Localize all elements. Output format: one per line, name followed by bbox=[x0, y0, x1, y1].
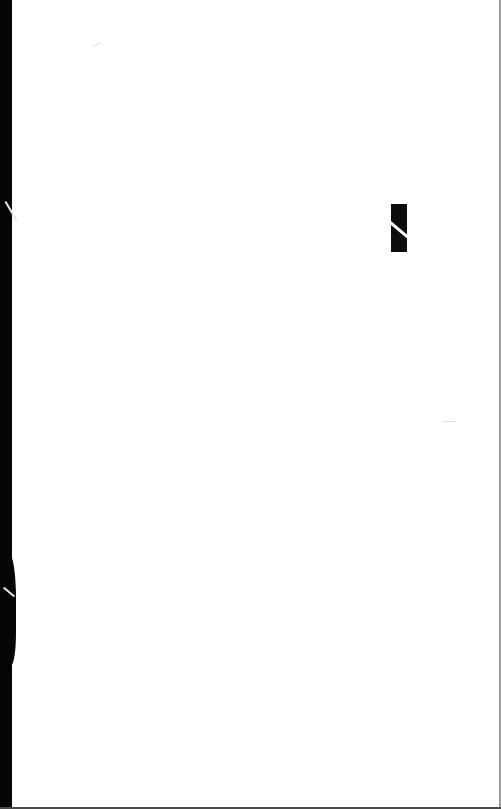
dust-speck bbox=[442, 421, 456, 422]
mark-slash bbox=[391, 221, 407, 241]
left-scan-edge-bulge bbox=[0, 555, 16, 665]
left-scan-edge bbox=[0, 0, 12, 809]
black-rectangle-mark bbox=[391, 204, 407, 252]
dust-speck bbox=[92, 42, 101, 47]
